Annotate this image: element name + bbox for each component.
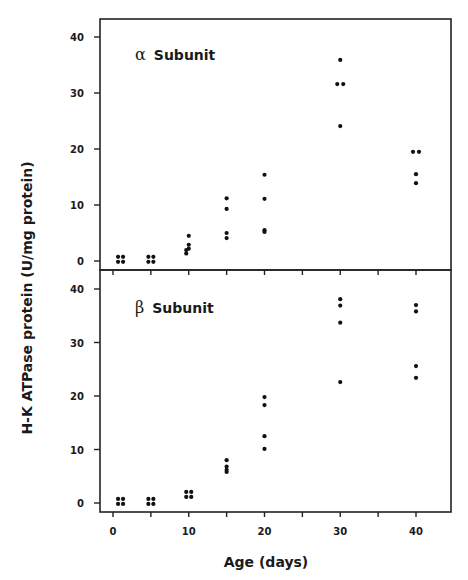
alpha-data-point <box>262 173 266 177</box>
alpha-data-point <box>184 251 188 255</box>
alpha-data-point <box>146 260 150 264</box>
x-tick-label: 20 <box>258 526 272 537</box>
alpha-data-point <box>338 58 342 62</box>
alpha-data-point <box>121 260 125 264</box>
alpha-data-point <box>414 181 418 185</box>
alpha-data-point <box>414 172 418 176</box>
beta-data-point <box>189 495 193 499</box>
x-axis-label: Age (days) <box>224 554 309 570</box>
alpha-data-point <box>146 255 150 259</box>
beta-data-point <box>262 434 266 438</box>
alpha-data-point <box>116 255 120 259</box>
alpha-data-point <box>225 231 229 235</box>
beta-data-point <box>338 303 342 307</box>
y-tick-label: 10 <box>70 445 84 456</box>
y-tick-label: 0 <box>77 256 84 267</box>
x-tick-label: 10 <box>182 526 196 537</box>
beta-data-point <box>121 497 125 501</box>
beta-data-point <box>146 497 150 501</box>
alpha-data-point <box>121 255 125 259</box>
alpha-data-point <box>225 196 229 200</box>
alpha-data-point <box>151 255 155 259</box>
beta-data-point <box>184 495 188 499</box>
plot-frames <box>100 19 451 512</box>
alpha-symbol: α <box>135 45 146 64</box>
data-points <box>116 58 421 506</box>
beta-data-point <box>338 297 342 301</box>
y-tick-label: 20 <box>70 144 84 155</box>
alpha-data-point <box>417 150 421 154</box>
alpha-panel-frame <box>100 19 451 270</box>
alpha-data-point <box>262 197 266 201</box>
y-axis-label: H-K ATPase protein (U/mg protein) <box>19 161 35 434</box>
y-tick-label: 30 <box>70 338 84 349</box>
beta-data-point <box>151 497 155 501</box>
beta-data-point <box>414 376 418 380</box>
beta-data-point <box>184 490 188 494</box>
scatter-chart: 010203040010203040010203040 αSubunit βSu… <box>0 0 468 580</box>
beta-data-point <box>414 309 418 313</box>
beta-data-point <box>338 321 342 325</box>
beta-data-point <box>189 490 193 494</box>
alpha-data-point <box>151 260 155 264</box>
beta-panel-title: βSubunit <box>135 298 214 317</box>
alpha-data-point <box>187 243 191 247</box>
beta-data-point <box>225 458 229 462</box>
y-tick-label: 40 <box>70 284 84 295</box>
x-tick-label: 40 <box>409 526 423 537</box>
beta-data-point <box>146 502 150 506</box>
alpha-data-point <box>187 234 191 238</box>
y-tick-label: 30 <box>70 88 84 99</box>
y-tick-label: 40 <box>70 32 84 43</box>
axis-ticks <box>94 37 416 517</box>
beta-symbol: β <box>135 298 144 317</box>
x-tick-label: 0 <box>110 526 117 537</box>
beta-data-point <box>414 303 418 307</box>
beta-data-point <box>151 502 155 506</box>
alpha-data-point <box>338 124 342 128</box>
tick-labels: 010203040010203040010203040 <box>70 32 423 537</box>
beta-title-text: Subunit <box>152 300 214 316</box>
beta-data-point <box>262 403 266 407</box>
beta-data-point <box>121 502 125 506</box>
beta-data-point <box>414 364 418 368</box>
alpha-data-point <box>335 82 339 86</box>
beta-data-point <box>338 380 342 384</box>
alpha-data-point <box>225 207 229 211</box>
alpha-title-text: Subunit <box>154 47 216 63</box>
y-tick-label: 10 <box>70 200 84 211</box>
y-tick-label: 20 <box>70 391 84 402</box>
alpha-panel-title: αSubunit <box>135 45 216 64</box>
alpha-data-point <box>225 236 229 240</box>
beta-data-point <box>262 395 266 399</box>
beta-data-point <box>225 470 229 474</box>
alpha-data-point <box>341 82 345 86</box>
alpha-data-point <box>411 150 415 154</box>
beta-data-point <box>262 447 266 451</box>
beta-data-point <box>116 502 120 506</box>
alpha-data-point <box>116 260 120 264</box>
x-tick-label: 30 <box>333 526 347 537</box>
y-tick-label: 0 <box>77 498 84 509</box>
beta-data-point <box>116 497 120 501</box>
alpha-data-point <box>262 230 266 234</box>
